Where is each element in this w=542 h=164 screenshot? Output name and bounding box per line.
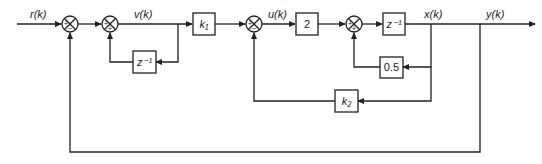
v-feedback-line <box>156 24 178 62</box>
signal-x-label: x(k) <box>423 8 443 20</box>
k2-label: k₂ <box>342 95 353 107</box>
signal-u-label: u(k) <box>268 8 287 20</box>
sum4-sign-plus-bottom: + <box>352 25 356 32</box>
sum2-sign-plus-bottom: + <box>108 25 112 32</box>
delay2-label: z⁻¹ <box>385 18 402 30</box>
block-diagram: + − + + + − + + z⁻¹ k₁ 2 z⁻¹ 0.5 k₂ r(k)… <box>0 0 542 164</box>
signal-v-label: v(k) <box>134 8 153 20</box>
k1-label: k₁ <box>200 18 210 30</box>
gain05-to-sum4-line <box>354 33 380 67</box>
signal-y-label: y(k) <box>485 8 505 20</box>
sum3-sign-minus: − <box>252 25 256 32</box>
x-to-gain05-line <box>403 24 431 67</box>
sum1-sign-minus: − <box>68 25 72 32</box>
signal-r-label: r(k) <box>30 8 47 20</box>
k2-to-sum3-line <box>254 33 335 101</box>
gain2-label: 2 <box>304 18 310 30</box>
delay1-label: z⁻¹ <box>136 56 153 68</box>
delay1-to-sum2-line <box>110 33 133 62</box>
y-feedback-line <box>70 24 480 152</box>
gain05-label: 0.5 <box>384 61 399 73</box>
